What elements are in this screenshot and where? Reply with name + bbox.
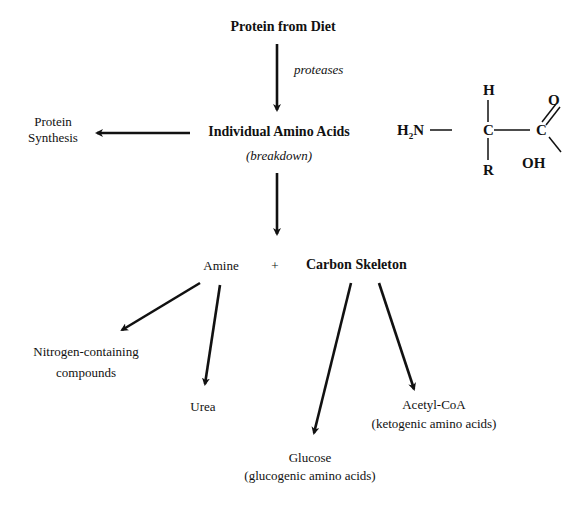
glucose-line2: (glucogenic amino acids) (244, 468, 375, 484)
amino-h: H (397, 122, 409, 138)
structure-h-top: H (483, 82, 495, 98)
glucose-label: Glucose (glucogenic amino acids) (244, 450, 375, 484)
nitrogen-line2: compounds (33, 365, 138, 381)
glucose-line1: Glucose (244, 450, 375, 466)
amine-label: Amine (203, 258, 238, 274)
structure-r-group: R (483, 162, 494, 178)
structure-amino-group: H2N (397, 122, 424, 144)
proteases-label: proteases (294, 62, 343, 78)
acetyl-line2: (ketogenic amino acids) (372, 416, 497, 432)
protein-from-diet-label: Protein from Diet (230, 19, 335, 35)
carbon-skeleton-label: Carbon Skeleton (306, 257, 407, 273)
structure-alpha-carbon: C (483, 122, 494, 138)
arrow-carbon-to-acetyl (379, 283, 414, 389)
nitrogen-line1: Nitrogen-containing (33, 344, 138, 360)
breakdown-label: (breakdown) (246, 148, 312, 164)
individual-amino-acids-label: Individual Amino Acids (208, 124, 350, 140)
arrow-amine-to-nitrogen (122, 283, 200, 330)
plus-sign: + (271, 258, 278, 274)
urea-label: Urea (190, 399, 215, 415)
nitrogen-compounds-label: Nitrogen-containing compounds (33, 344, 138, 381)
acetyl-line1: Acetyl-CoA (372, 397, 497, 413)
protein-synthesis-label: Protein Synthesis (28, 114, 78, 146)
structure-oxygen: O (548, 92, 560, 108)
protein-synthesis-line1: Protein (28, 114, 78, 130)
structure-hydroxyl: OH (522, 155, 545, 171)
amino-n: N (413, 122, 424, 138)
protein-synthesis-line2: Synthesis (28, 130, 78, 146)
structure-carboxyl-carbon: C (536, 122, 547, 138)
acetyl-coa-label: Acetyl-CoA (ketogenic amino acids) (372, 397, 497, 432)
arrow-carbon-to-glucose (314, 283, 351, 433)
arrow-amine-to-urea (205, 285, 220, 384)
